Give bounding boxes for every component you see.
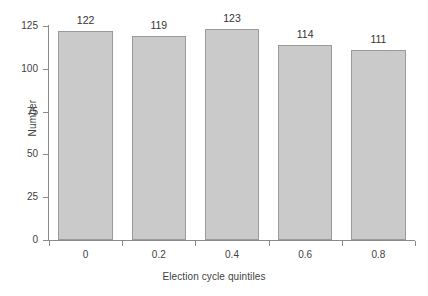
x-axis-tick-label: 0.2: [129, 249, 189, 260]
y-axis-tick: [43, 26, 49, 27]
y-axis-tick: [43, 197, 49, 198]
bar: [278, 45, 333, 240]
bar-chart-figure: Number 0255075100125 122119123114111 00.…: [0, 0, 428, 296]
x-axis-title: Election cycle quintiles: [0, 271, 428, 282]
bar-value-label: 114: [275, 28, 335, 40]
x-axis-tick: [415, 241, 416, 246]
x-axis-line: [48, 240, 415, 241]
y-axis-tick: [43, 112, 49, 113]
x-axis-tick-label: 0.8: [348, 249, 408, 260]
y-axis-title: Number: [27, 83, 38, 153]
bar-value-label: 119: [129, 19, 189, 31]
y-axis-tick-label: 25: [0, 191, 38, 202]
bar-value-label: 123: [202, 12, 262, 24]
y-axis-line: [48, 25, 49, 241]
x-axis-tick: [195, 241, 196, 246]
y-axis-tick-label: 0: [0, 234, 38, 245]
x-axis-tick-label: 0.4: [202, 249, 262, 260]
y-axis-tick-label: 100: [0, 63, 38, 74]
bar: [132, 36, 187, 240]
x-axis-tick-label: 0.6: [275, 249, 335, 260]
bar-value-label: 111: [348, 33, 408, 45]
x-axis-tick: [269, 241, 270, 246]
bar: [351, 50, 406, 240]
bar: [58, 31, 113, 240]
bar: [205, 29, 260, 240]
x-axis-tick: [122, 241, 123, 246]
x-axis-tick: [342, 241, 343, 246]
y-axis-tick-label: 125: [0, 20, 38, 31]
y-axis-tick-label: 75: [0, 106, 38, 117]
y-axis-tick: [43, 69, 49, 70]
y-axis-tick: [43, 154, 49, 155]
bar-value-label: 122: [56, 14, 116, 26]
x-axis-tick: [49, 241, 50, 246]
y-axis-tick-label: 50: [0, 148, 38, 159]
x-axis-tick-label: 0: [56, 249, 116, 260]
